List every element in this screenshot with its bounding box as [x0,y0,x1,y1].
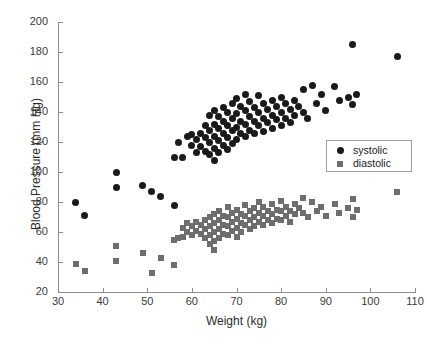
x-axis-label: Weight (kg) [58,314,415,328]
x-tick-label: 100 [350,296,390,307]
y-tick-mark [58,52,63,53]
x-tick-mark [281,288,282,293]
y-tick-mark [58,112,63,113]
y-axis-label: Blood Pressure (mm Hg) [29,64,43,264]
x-tick-label: 50 [127,296,167,307]
x-tick-label: 110 [395,296,427,307]
y-tick-mark [58,202,63,203]
y-tick-mark [58,232,63,233]
y-tick-mark [58,142,63,143]
x-tick-mark [103,288,104,293]
y-tick-mark [58,82,63,83]
x-tick-label: 80 [261,296,301,307]
y-axis-spine [58,22,59,293]
y-tick-mark [58,262,63,263]
x-tick-label: 30 [38,296,78,307]
y-tick-mark [58,172,63,173]
y-tick-label: 200 [14,16,48,27]
x-tick-label: 40 [83,296,123,307]
x-tick-label: 60 [172,296,212,307]
legend-item-diastolic: diastolic [327,156,413,171]
y-tick-mark [58,22,63,23]
x-tick-mark [147,288,148,293]
circle-marker-icon [327,147,353,154]
x-tick-mark [58,288,59,293]
x-tick-mark [192,288,193,293]
x-tick-label: 70 [217,296,257,307]
x-tick-mark [237,288,238,293]
square-marker-icon [327,161,353,167]
scatter-plot-figure: 20406080100120140160180200 3040506070809… [0,0,427,346]
legend-label-diastolic: diastolic [353,158,391,169]
x-tick-mark [370,288,371,293]
legend: systolic diastolic [326,140,412,172]
legend-label-systolic: systolic [353,145,387,156]
y-tick-label: 180 [14,46,48,57]
x-tick-mark [326,288,327,293]
x-tick-label: 90 [306,296,346,307]
x-tick-mark [415,288,416,293]
